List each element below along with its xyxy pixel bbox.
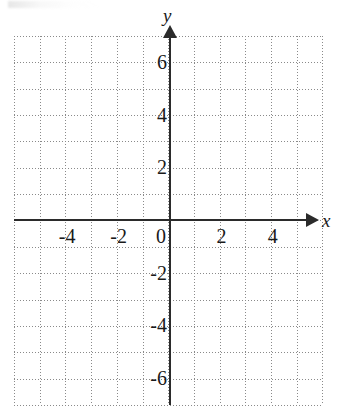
grid-line-horizontal — [14, 194, 322, 195]
grid-line-horizontal — [14, 379, 322, 380]
x-tick-label: 4 — [268, 226, 278, 246]
y-axis-arrow-icon — [163, 25, 177, 38]
y-tick-label: -4 — [150, 315, 167, 335]
y-axis-line — [169, 32, 171, 405]
x-axis-label: x — [322, 211, 330, 230]
x-axis-arrow-icon — [306, 213, 319, 227]
x-axis-line — [14, 219, 313, 221]
grid-line-horizontal — [14, 115, 322, 116]
scan-smudge-artifact — [8, 1, 100, 8]
grid-line-horizontal — [14, 300, 322, 301]
y-axis-label: y — [163, 6, 171, 25]
y-tick-label: 4 — [157, 105, 167, 125]
grid-line-horizontal — [14, 273, 322, 274]
y-tick-label: -2 — [150, 263, 167, 283]
origin-label: 0 — [156, 226, 166, 246]
y-tick-label: 2 — [157, 157, 167, 177]
y-tick-label: 6 — [157, 52, 167, 72]
coordinate-grid-figure: y x 642-2-4-6-4-2024 — [0, 0, 338, 419]
grid-line-horizontal — [14, 405, 322, 406]
x-tick-label: -2 — [110, 226, 127, 246]
y-tick-label: -6 — [150, 368, 167, 388]
grid-line-horizontal — [14, 89, 322, 90]
x-tick-label: -4 — [59, 226, 76, 246]
grid-line-horizontal — [14, 62, 322, 63]
grid-line-horizontal — [14, 326, 322, 327]
grid-line-horizontal — [14, 141, 322, 142]
grid-line-horizontal — [14, 352, 322, 353]
grid-line-horizontal — [14, 168, 322, 169]
x-tick-label: 2 — [216, 226, 226, 246]
grid-line-horizontal — [14, 247, 322, 248]
